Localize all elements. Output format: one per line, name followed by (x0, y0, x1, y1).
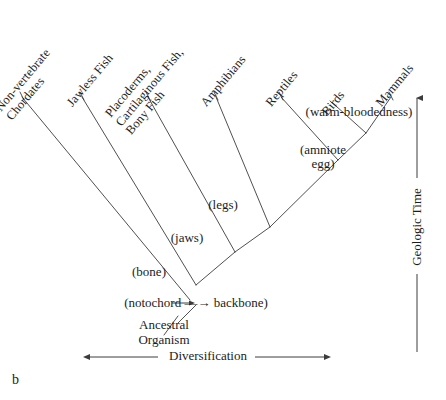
branch-placoderms-bony-fish (148, 97, 235, 252)
geologic-time-axis-label: Geologic Time (409, 187, 425, 267)
node-label-legs: (legs) (193, 198, 253, 212)
node-label-amniote-egg: (amniote egg) (290, 143, 356, 171)
branch-bone-to-jaws (196, 252, 235, 285)
node-label-notochord-backbone: (notochord —→ backbone) (118, 296, 274, 310)
cladogram-figure: Non-vertebrate Chordates Jawless Fish Pl… (0, 0, 446, 400)
panel-letter: b (12, 372, 19, 388)
branch-jaws-to-legs (235, 227, 270, 252)
node-label-jaws: (jaws) (157, 231, 217, 245)
node-label-warm-bloodedness: (warm-bloodedness) (297, 105, 421, 119)
diversification-axis-label: Diversification (169, 348, 247, 364)
ancestral-organism-label: Ancestral Organism (124, 318, 204, 347)
node-label-bone: (bone) (119, 265, 179, 279)
